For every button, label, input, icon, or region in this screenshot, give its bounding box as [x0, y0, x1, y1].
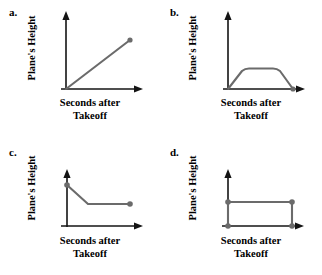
data-endpoint-a	[127, 37, 132, 42]
x-axis-label-b-line1: Seconds after	[221, 97, 281, 108]
x-axis-label-b: Seconds after Takeoff	[195, 96, 307, 122]
x-axis-label-a-line1: Seconds after	[60, 97, 120, 108]
x-axis-label-a-line2: Takeoff	[34, 109, 146, 122]
panel-b: b. Plane's Height Seconds after Takeoff	[161, 0, 322, 137]
x-axis-arrowhead-d	[295, 222, 304, 229]
data-line-a	[66, 40, 130, 89]
x-axis-label-d: Seconds after Takeoff	[195, 234, 307, 260]
x-axis-label-c: Seconds after Takeoff	[34, 234, 146, 260]
data-line-b	[228, 69, 293, 90]
panel-c: c. Plane's Height Seconds after Takeoff	[0, 138, 161, 275]
data-corner-origin-d	[225, 223, 231, 229]
y-axis-arrowhead-b	[224, 11, 231, 20]
y-axis-arrowhead-d	[224, 169, 231, 178]
x-axis-arrowhead-c	[134, 222, 143, 229]
data-line-c	[67, 185, 130, 204]
x-axis-arrowhead-b	[296, 85, 305, 92]
x-axis-label-c-line1: Seconds after	[60, 235, 120, 246]
y-axis-arrowhead-c	[63, 169, 70, 178]
panel-a: a. Plane's Height Seconds after Takeoff	[0, 0, 161, 137]
data-startpoint-c	[64, 182, 70, 188]
x-axis-label-b-line2: Takeoff	[195, 109, 307, 122]
x-axis-label-a: Seconds after Takeoff	[34, 96, 146, 122]
panel-d: d. Plane's Height Seconds after Takeoff	[161, 138, 322, 275]
y-axis-arrowhead-a	[62, 11, 69, 20]
x-axis-label-d-line2: Takeoff	[195, 247, 307, 260]
x-axis-label-c-line2: Takeoff	[34, 247, 146, 260]
x-axis-label-d-line1: Seconds after	[221, 235, 281, 246]
data-endpoint-c	[127, 201, 133, 207]
x-axis-arrowhead-a	[134, 85, 143, 92]
data-corner-topleft-d	[225, 199, 231, 205]
figure-sheet: a. Plane's Height Seconds after Takeoff …	[0, 0, 322, 275]
data-corner-bottomright-d	[289, 223, 295, 229]
data-line-d	[228, 202, 292, 226]
data-corner-topright-d	[289, 199, 295, 205]
data-endpoint-b	[290, 86, 295, 91]
